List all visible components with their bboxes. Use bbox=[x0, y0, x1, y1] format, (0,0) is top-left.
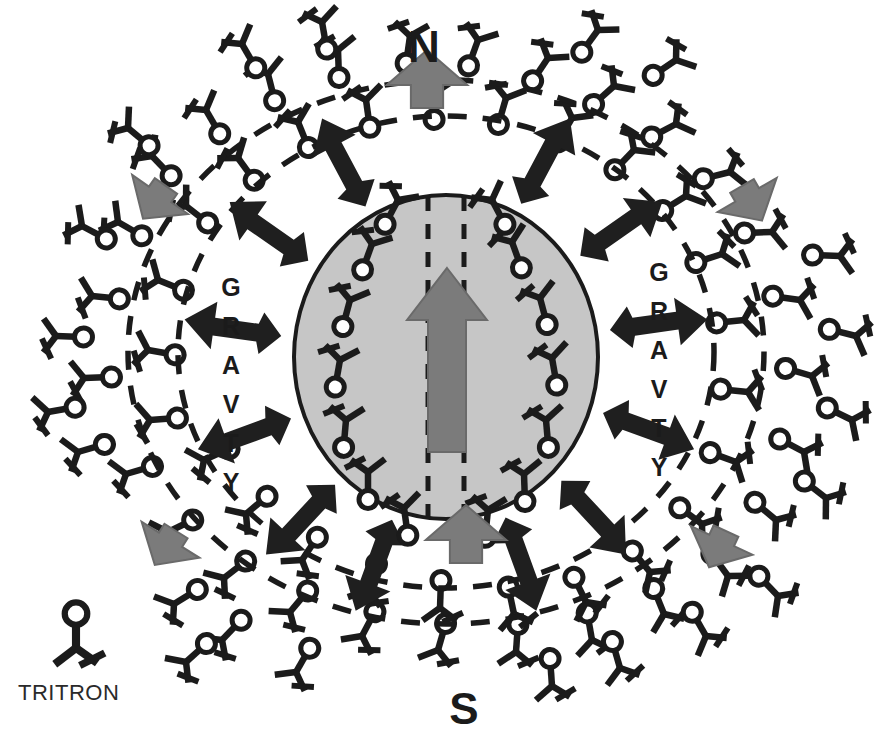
gravity-label-right-letter-3: A bbox=[650, 336, 668, 364]
south-pole-label: S bbox=[449, 684, 478, 733]
north-pole-label: N bbox=[408, 22, 440, 71]
gravity-label-right-letter-4: V bbox=[651, 375, 668, 403]
legend-label: TRITRON bbox=[18, 680, 119, 705]
gravity-label-right-letter-2: R bbox=[650, 297, 668, 325]
gravity-label-left-letter-4: V bbox=[223, 390, 240, 418]
tritron-gravity-diagram: N S GRAVTY GRAVTY TRITRON bbox=[0, 0, 890, 746]
gravity-label-left-letter-2: R bbox=[222, 312, 240, 340]
gravity-label-right-letter-1: G bbox=[649, 258, 668, 286]
gravity-label-left-letter-3: A bbox=[222, 351, 240, 379]
gravity-label-left-letter-5: T bbox=[223, 429, 238, 457]
gravity-label-left-letter-1: G bbox=[221, 273, 240, 301]
diagram-canvas: N S GRAVTY GRAVTY TRITRON bbox=[0, 0, 890, 746]
gravity-label-left-letter-6: Y bbox=[223, 468, 240, 496]
gravity-label-right-letter-5: T bbox=[651, 414, 666, 442]
gravity-label-right-letter-6: Y bbox=[651, 453, 668, 481]
